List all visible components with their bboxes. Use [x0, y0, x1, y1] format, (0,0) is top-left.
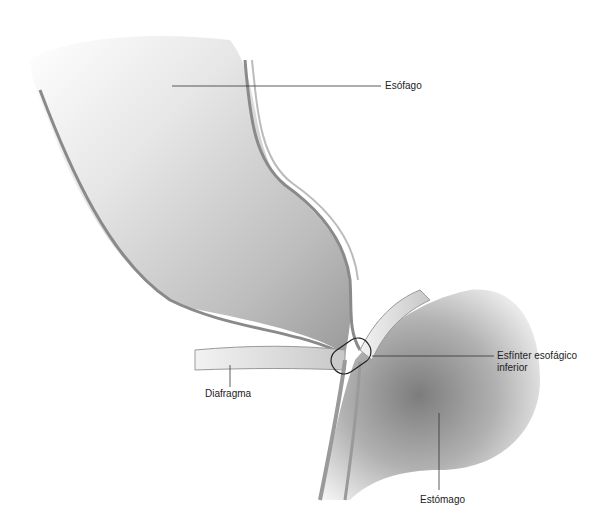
label-estomago: Estómago — [420, 494, 465, 506]
esophagus-shape — [30, 36, 351, 355]
diaphragm-left — [195, 346, 345, 370]
label-diafragma: Diafragma — [205, 388, 251, 400]
stomach-shape — [320, 290, 540, 500]
label-esofago: Esófago — [385, 80, 422, 92]
label-esfinter-line1: Esfínter esofágico — [497, 350, 577, 362]
anatomy-illustration — [0, 0, 599, 526]
label-esfinter-line2: inferior — [497, 362, 528, 374]
